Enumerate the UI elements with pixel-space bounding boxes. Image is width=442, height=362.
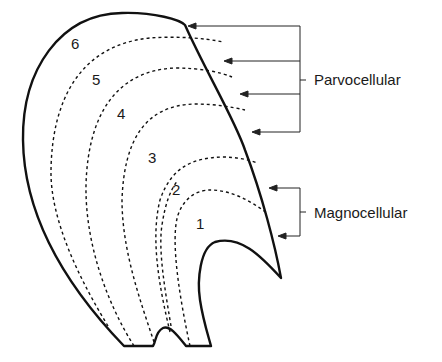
layer-label-4: 4 — [117, 106, 125, 121]
boundary-4-3 — [122, 104, 245, 342]
boundary-2-1 — [175, 190, 268, 346]
layer-label-1: 1 — [196, 216, 204, 231]
outer-boundary — [23, 13, 281, 346]
lgn-layers-drawing — [0, 0, 442, 362]
layer-label-2: 2 — [172, 182, 180, 197]
magnocellular-bracket — [269, 185, 306, 239]
parvocellular-label: Parvocellular — [314, 72, 401, 87]
layer-label-3: 3 — [148, 150, 156, 165]
boundary-inner-2 — [161, 180, 178, 326]
boundary-6-5 — [51, 37, 223, 326]
parvocellular-bracket — [188, 23, 306, 135]
lgn-diagram: 6 5 4 3 2 1 Parvocellular Magnocellular — [0, 0, 442, 362]
layer-label-6: 6 — [71, 36, 79, 51]
magnocellular-label: Magnocellular — [314, 205, 407, 220]
layer-label-5: 5 — [92, 72, 100, 87]
